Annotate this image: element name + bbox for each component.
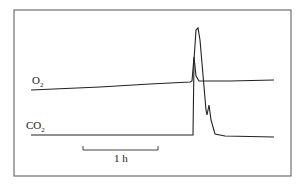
chart-frame (14, 10, 291, 176)
co2-trace (31, 28, 274, 137)
o2-label: O2 (32, 74, 43, 89)
o2-trace (31, 57, 274, 90)
scale-bar (83, 146, 158, 150)
co2-label: CO2 (26, 119, 45, 134)
scale-bar-label: 1 h (114, 152, 128, 164)
chart-canvas (0, 0, 306, 184)
